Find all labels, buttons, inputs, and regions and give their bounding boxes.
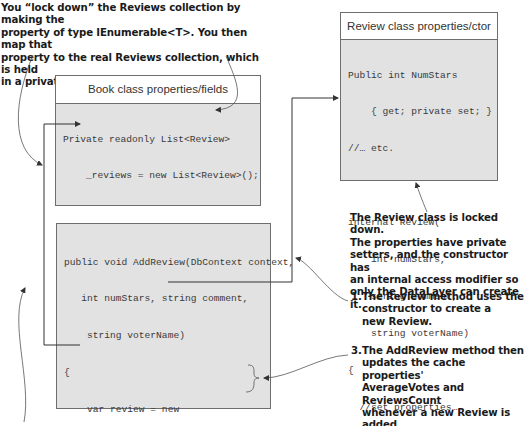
add-review-box: public void AddReview(DbContext context,… xyxy=(56,223,271,409)
review-box-title: Review class properties/ctor xyxy=(341,13,497,40)
annotation-line: setters, and the constructor has xyxy=(350,249,528,274)
annotation-line: new Review. xyxy=(362,316,528,328)
code-line: Public int NumStars xyxy=(348,70,497,82)
annotation-line: The Review class is locked down. xyxy=(350,212,528,237)
annotation-line: updates the cache properties' xyxy=(362,357,528,382)
annotation-line: AverageVotes and ReviewsCount xyxy=(362,382,528,407)
code-line: public void AddReview(DbContext context, xyxy=(64,257,270,269)
code-line: { get; private set; } xyxy=(348,106,497,118)
code-line: _reviews = new List<Review>(); xyxy=(63,170,260,182)
annotation-line: property to the real Reviews collection,… xyxy=(1,52,271,77)
add-review-code: public void AddReview(DbContext context,… xyxy=(57,224,270,426)
step-number: 3. xyxy=(351,345,362,357)
review-class-box: Review class properties/ctor Public int … xyxy=(340,12,498,181)
arrow-step3-to-brace xyxy=(264,355,348,378)
annotation-step-1: 1. The Review method uses the constructo… xyxy=(351,291,528,328)
annotation-line: The properties have private xyxy=(350,237,528,249)
code-line: int numStars, string comment, xyxy=(64,293,270,305)
code-line: string voterName) xyxy=(64,330,270,342)
code-line: { xyxy=(64,367,270,379)
annotation-line: The AddReview method then xyxy=(362,345,528,357)
code-line: Private readonly List<Review> xyxy=(63,134,260,146)
annotation-line: constructor to create a xyxy=(362,303,528,315)
book-box-title: Book class properties/fields xyxy=(56,76,260,104)
annotation-line: an internal access modifier so xyxy=(350,274,528,286)
annotation-line: property of type IEnumerable<T>. You the… xyxy=(1,27,271,52)
step-number: 1. xyxy=(351,291,362,303)
annotation-line: whenever a new Review is added xyxy=(362,407,528,426)
code-line xyxy=(348,180,497,192)
annotation-line: The Review method uses the xyxy=(362,291,528,303)
annotation-step-3: 3. The AddReview method then updates the… xyxy=(351,345,528,426)
book-class-box: Book class properties/fields Private rea… xyxy=(55,75,261,206)
code-line: //… etc. xyxy=(348,143,497,155)
annotation-line: You “lock down” the Reviews collection b… xyxy=(1,2,271,27)
arrow-bottom-to-addreview xyxy=(19,288,26,422)
code-line xyxy=(63,207,260,219)
code-line: var review = new xyxy=(64,404,270,416)
code-line: string voterName) xyxy=(348,328,497,340)
